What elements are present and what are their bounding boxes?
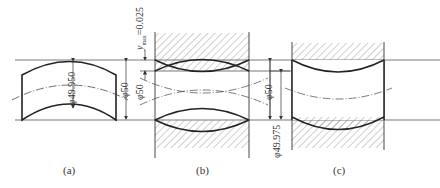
caption-c: (c) [333,164,345,176]
ymax-symbol: y [134,46,145,50]
dim-a-outer-label: φ50 [119,82,130,98]
part-b-bot-up [155,109,249,121]
ymax-label: ymax=0.025 [134,7,147,50]
panel-c [270,42,392,150]
dim-b-left-label: φ50 [134,84,145,100]
caption-b: (b) [196,164,209,176]
ymax-sub: max [141,35,147,45]
ymax-value: =0.025 [134,7,145,35]
panel-b [140,32,270,158]
caption-a: (a) [63,164,75,176]
dim-b-right-label: φ50 [263,84,274,100]
dim-c-inner-label: φ49.975 [271,125,282,158]
dim-a-inner-label: φ49.950 [66,72,77,105]
